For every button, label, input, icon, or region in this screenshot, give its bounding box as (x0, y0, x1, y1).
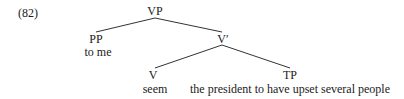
branch-vp-vbar (155, 18, 222, 32)
branch-vp-pp (96, 18, 155, 32)
node-vbar: V′ (217, 33, 228, 45)
node-tp: TP (283, 69, 297, 81)
leaf-v-text: seem (143, 83, 168, 95)
node-v: V (149, 69, 158, 81)
node-pp: PP (89, 33, 102, 45)
branch-vbar-tp (222, 45, 290, 68)
node-vp: VP (147, 5, 162, 17)
leaf-pp-text: to me (85, 46, 112, 58)
leaf-tp-text: the president to have upset several peop… (190, 83, 390, 95)
branch-vbar-v (155, 45, 222, 68)
